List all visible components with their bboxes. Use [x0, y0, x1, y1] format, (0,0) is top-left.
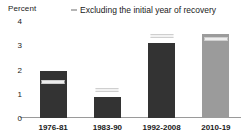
- bar-1976-81: [40, 71, 67, 118]
- bar-1983-90: [94, 97, 121, 118]
- bar-group: 1976-81: [40, 21, 67, 118]
- y-axis-unit-label: Percent: [8, 4, 36, 13]
- excluding-initial-year-marker-1983-90: [96, 88, 119, 92]
- legend-label-excluding-initial-year: Excluding the initial year of recovery: [80, 5, 216, 15]
- chart-legend: Excluding the initial year of recovery: [71, 5, 216, 15]
- legend-dash-icon: [71, 9, 77, 11]
- excluding-initial-year-marker-1992-2008: [150, 34, 173, 38]
- y-axis-tick-label: 0: [18, 114, 22, 123]
- excluding-initial-year-marker-2010-19: [204, 37, 227, 41]
- y-axis-tick-label: 3: [18, 41, 22, 50]
- y-axis-tick-label: 2: [18, 65, 22, 74]
- bar-group: 1983-90: [94, 21, 121, 118]
- x-axis-label-1976-81: 1976-81: [38, 123, 67, 132]
- bar-group: 1992-2008: [148, 21, 175, 118]
- x-axis-label-1983-90: 1983-90: [93, 123, 122, 132]
- plot-area: 012341976-811983-901992-20082010-19: [26, 21, 243, 118]
- bar-2010-19: [202, 34, 229, 118]
- excluding-initial-year-marker-1976-81: [42, 80, 65, 84]
- y-axis-tick-label: 1: [18, 89, 22, 98]
- y-axis-tick-label: 4: [18, 17, 22, 26]
- bar-chart: Percent Excluding the initial year of re…: [0, 0, 247, 136]
- x-axis-label-2010-19: 2010-19: [201, 123, 230, 132]
- bar-group: 2010-19: [202, 21, 229, 118]
- x-axis-label-1992-2008: 1992-2008: [142, 123, 180, 132]
- bar-1992-2008: [148, 43, 175, 118]
